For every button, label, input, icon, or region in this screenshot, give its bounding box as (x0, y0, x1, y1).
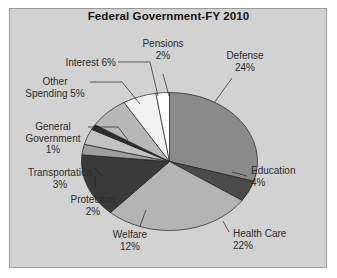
label-health-care: Health Care 22% (233, 228, 328, 251)
label-health-care-pct: 22% (233, 240, 253, 251)
label-pensions: Pensions 2% (123, 38, 203, 61)
label-welfare-name: Welfare (113, 229, 147, 240)
label-pensions-pct: 2% (156, 50, 170, 61)
label-education: Education 4% (251, 165, 331, 188)
label-protection-name: Protection (70, 194, 115, 205)
label-health-care-name: Health Care (233, 228, 286, 239)
label-other-spending-name: Other (42, 76, 67, 87)
label-defense-name: Defense (226, 50, 263, 61)
label-education-pct: 4% (251, 177, 265, 188)
label-welfare: Welfare 12% (100, 229, 160, 252)
chart-figure: Federal Government-FY 2010 Pensions 2% D… (0, 0, 337, 278)
label-general-government-name: General (35, 121, 71, 132)
label-protection-pct: 2% (86, 206, 100, 217)
label-defense: Defense 24% (210, 50, 280, 73)
label-transportation-pct: 3% (53, 179, 67, 190)
label-other-spending: Other Spending 5% (20, 76, 90, 99)
label-protection: Protection 2% (58, 194, 128, 217)
label-welfare-pct: 12% (120, 241, 140, 252)
leader-defense (214, 78, 232, 103)
label-pensions-name: Pensions (142, 38, 183, 49)
label-general-government-name2: Government (25, 133, 80, 144)
label-education-name: Education (251, 165, 295, 176)
label-general-government-pct: 1% (46, 144, 60, 155)
label-general-government: General Government 1% (18, 121, 88, 156)
label-other-spending-name2: Spending 5% (25, 88, 85, 99)
label-interest: Interest 6% (38, 57, 116, 69)
label-transportation-name: Transportation (28, 167, 92, 178)
label-defense-pct: 24% (235, 62, 255, 73)
leader-interest (118, 62, 158, 96)
label-transportation: Transportation 3% (14, 167, 106, 190)
leader-health (223, 221, 229, 232)
